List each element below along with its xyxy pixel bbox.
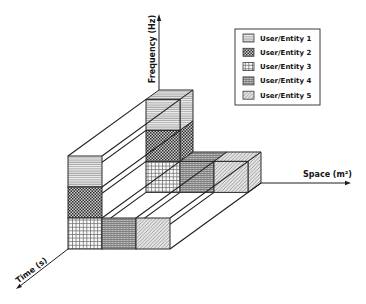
frequency-axis-arrow-icon [157, 14, 161, 21]
legend-label: User/Entity 5 [260, 92, 311, 100]
resource-allocation-diagram: Frequency (Hz) Space (m²) Time (s) [0, 0, 366, 304]
legend-item-entity-3: User/Entity 3 [243, 63, 311, 72]
space-axis-label: Space (m²) [303, 170, 352, 179]
legend-item-entity-2: User/Entity 2 [243, 48, 311, 57]
front-entity-5-tile [136, 218, 170, 249]
back-entity-5-tile [214, 161, 248, 192]
legend-label: User/Entity 2 [260, 49, 311, 57]
entity-3-swatch-icon [243, 63, 254, 71]
entity-5-swatch-icon [243, 91, 254, 99]
back-entity-3-tile [146, 161, 180, 192]
legend-label: User/Entity 1 [260, 35, 311, 43]
back-entity-4-tile [180, 161, 214, 192]
edge-s0-f3 [68, 99, 146, 156]
frequency-axis: Frequency (Hz) [148, 14, 162, 90]
entity-2-swatch-icon [243, 48, 254, 56]
entity-1-swatch-icon [243, 34, 254, 42]
space-axis: Space (m²) [261, 170, 352, 185]
entity-4-swatch-icon [243, 77, 254, 85]
front-entity-1-tile [68, 156, 102, 187]
legend-label: User/Entity 4 [260, 77, 311, 85]
legend-item-entity-5: User/Entity 5 [243, 91, 311, 100]
space-axis-arrow-icon [345, 181, 351, 185]
front-entity-4-tile [102, 218, 136, 249]
legend: User/Entity 1 User/Entity 2 User/Entity … [235, 29, 320, 105]
front-entity-2-tile [68, 187, 102, 218]
time-axis: Time (s) [14, 249, 68, 289]
legend-item-entity-1: User/Entity 1 [243, 34, 311, 43]
legend-label: User/Entity 3 [260, 63, 311, 71]
frequency-axis-label: Frequency (Hz) [148, 15, 157, 83]
back-entity-2-tile [146, 130, 180, 161]
time-axis-label: Time (s) [14, 256, 49, 285]
front-entity-3-tile [68, 218, 102, 249]
back-entity-1-tile [146, 99, 180, 130]
legend-item-entity-4: User/Entity 4 [243, 77, 311, 86]
